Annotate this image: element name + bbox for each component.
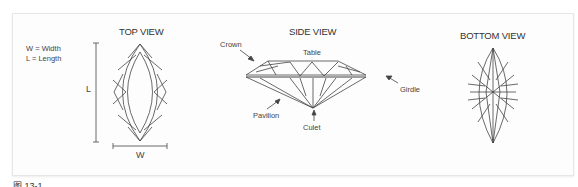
diagram-drawing: [0, 0, 578, 187]
length-dimension-icon: [93, 43, 99, 142]
girdle-arrow-icon: [386, 76, 398, 83]
culet-arrow-icon: [312, 110, 316, 121]
side-view-profile-icon: [246, 61, 366, 108]
width-dimension-icon: [113, 143, 167, 149]
top-view-marquise-icon: [113, 44, 167, 141]
crown-arrow-icon: [240, 50, 254, 61]
pavilion-arrow-icon: [267, 99, 280, 109]
figure-caption: 图 13-1: [13, 179, 43, 187]
bottom-view-marquise-icon: [468, 48, 518, 143]
